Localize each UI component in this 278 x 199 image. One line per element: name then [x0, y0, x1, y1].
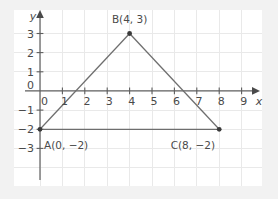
y-tick-label-neg1: −1: [18, 104, 34, 117]
y-axis-arrow-icon: [36, 10, 44, 18]
vertical-grid-lines: [40, 10, 242, 186]
figure-root: 3 2 1 0 −1 −2 −3 0 1 2 3 4 5 6 7 8 9 y x: [0, 0, 278, 199]
x-tick-label-0: 0: [41, 95, 48, 108]
x-tick-label-5: 5: [151, 95, 158, 108]
x-tick-labels: 0 1 2 3 4 5 6 7 8 9: [41, 95, 247, 108]
y-tick-label-1: 1: [27, 66, 34, 79]
x-tick-label-2: 2: [83, 95, 90, 108]
y-tick-label-neg2: −2: [18, 123, 34, 136]
y-tick-label-neg3: −3: [18, 142, 34, 155]
x-tick-label-1: 1: [61, 95, 68, 108]
x-axis-label: x: [255, 95, 263, 108]
coordinate-plane-svg: 3 2 1 0 −1 −2 −3 0 1 2 3 4 5 6 7 8 9 y x: [0, 0, 278, 199]
x-tick-label-3: 3: [106, 95, 113, 108]
y-tick-label-3: 3: [27, 28, 34, 41]
y-tick-label-2: 2: [27, 47, 34, 60]
y-axis-label: y: [29, 10, 37, 23]
vertex-point-b: [127, 31, 132, 36]
y-tick-label-0: 0: [27, 79, 34, 92]
x-tick-label-6: 6: [173, 95, 180, 108]
x-tick-label-8: 8: [218, 95, 225, 108]
vertex-label-b: B(4, 3): [112, 13, 147, 25]
vertex-point-a: [38, 127, 43, 132]
x-tick-label-4: 4: [128, 95, 135, 108]
vertex-point-c: [217, 127, 222, 132]
vertex-label-a: A(0, −2): [44, 139, 88, 151]
x-tick-label-9: 9: [240, 95, 247, 108]
vertex-label-c: C(8, −2): [171, 139, 215, 151]
x-axis-arrow-icon: [252, 87, 260, 95]
x-tick-label-7: 7: [195, 95, 202, 108]
